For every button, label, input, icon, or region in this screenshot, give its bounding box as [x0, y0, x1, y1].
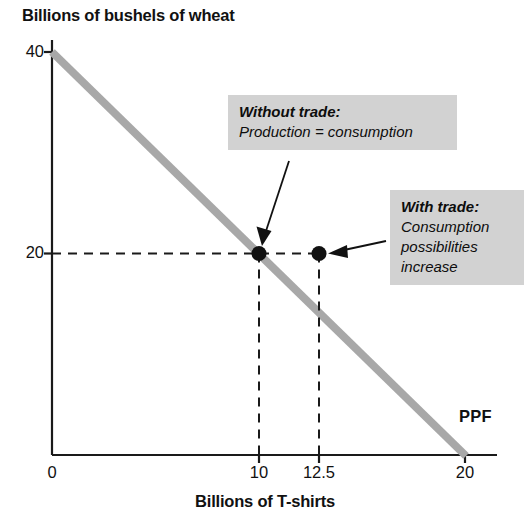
data-point-with-trade[interactable]	[312, 246, 327, 261]
callout-without-trade: Without trade: Production = consumption	[228, 95, 457, 150]
callout-with-trade-lead: With trade:	[401, 197, 513, 217]
x-axis-title: Billions of T-shirts	[0, 492, 530, 511]
callout-without-trade-lead: Without trade:	[239, 102, 446, 122]
callout-with-trade: With trade: Consumption possibilities in…	[390, 190, 524, 285]
arrow-without-trade	[257, 161, 290, 246]
ppf-curve-label: PPF	[459, 407, 492, 426]
callout-without-trade-body: Production = consumption	[239, 122, 446, 142]
data-point-without-trade[interactable]	[252, 246, 267, 261]
arrow-with-trade	[328, 241, 386, 258]
ppf-chart-figure: Billions of bushels of wheat 40 20 0 10 …	[0, 0, 530, 529]
callout-with-trade-body: Consumption possibilities increase	[401, 217, 513, 277]
